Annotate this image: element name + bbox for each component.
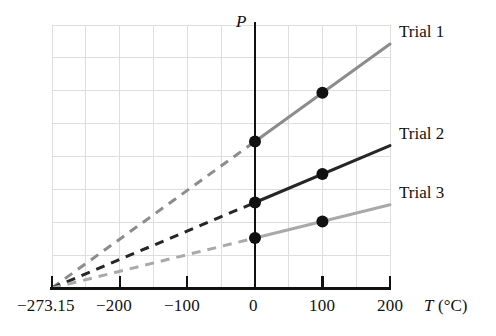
chart-figure: P −273.15 −200 −100 0 100 200 T (°C) Tri… [0,0,496,336]
trial-1-point-100C [316,87,328,99]
series-label-trial-2: Trial 2 [399,124,444,144]
plot-area [0,0,496,336]
x-tick-label-zero: 0 [249,296,258,316]
x-tick-label-minus100: −100 [164,296,200,316]
y-axis-label: P [236,12,246,32]
grid-lines [52,25,390,288]
trial-3-point-100C [316,215,328,227]
x-tick-label-plus100: 100 [309,296,335,316]
x-tick-label-abs-zero: −273.15 [17,296,75,316]
series-label-trial-3: Trial 3 [399,183,444,203]
x-axis-unit: (°C) [438,296,467,316]
trial-2-point-100C [316,168,328,180]
x-tick-label-minus200: −200 [96,296,132,316]
x-axis-label: T [424,296,433,316]
series-label-trial-1: Trial 1 [399,22,444,42]
x-tick-label-plus200: 200 [377,296,403,316]
